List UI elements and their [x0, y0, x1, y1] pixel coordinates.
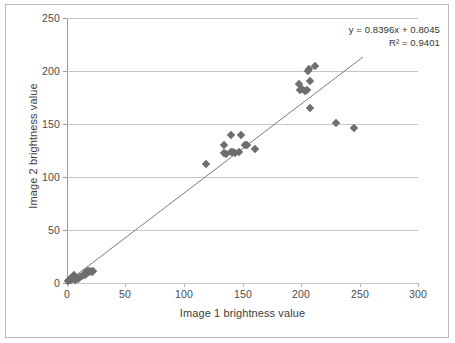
r-squared-value: R² = 0.9401: [349, 36, 440, 49]
y-tick-label-250: 250: [20, 12, 60, 24]
y-tick-label-50-wrap: 50: [18, 224, 60, 236]
y-tick-label-250-wrap: 250: [18, 12, 60, 24]
gridline-0: [67, 283, 418, 284]
x-tick-label-0: 0: [47, 288, 87, 300]
y-tick-label-200: 200: [20, 65, 60, 77]
x-tick-label-200: 200: [281, 288, 321, 300]
x-tick-label-150: 150: [223, 288, 263, 300]
y-tick-label-100-wrap: 100: [18, 171, 60, 183]
plot-area: [67, 18, 418, 283]
regression-annotation: y = 0.8396x + 0.8045 R² = 0.9401: [349, 23, 440, 49]
y-tick-label-100: 100: [20, 171, 60, 183]
regression-equation: y = 0.8396x + 0.8045: [349, 23, 440, 36]
y-tick-label-50: 50: [20, 224, 60, 236]
y-tick-label-150-wrap: 150: [18, 118, 60, 130]
x-axis-title: Image 1 brightness value: [67, 307, 418, 319]
y-tick-label-150: 150: [20, 118, 60, 130]
x-tick-label-50: 50: [105, 288, 145, 300]
x-tick-label-100: 100: [164, 288, 204, 300]
y-tick-label-200-wrap: 200: [18, 65, 60, 77]
y-axis-title-container: Image 2 brightness value: [12, 18, 34, 283]
scatter-chart-figure: Image 2 brightness value 250 200 150 100…: [0, 0, 455, 343]
x-tick-label-300: 300: [398, 288, 438, 300]
x-axis-tick-300: [418, 283, 419, 287]
x-tick-label-250: 250: [340, 288, 380, 300]
